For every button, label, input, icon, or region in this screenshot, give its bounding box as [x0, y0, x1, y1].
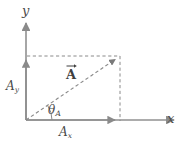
angle-label-subscript: A	[55, 109, 60, 118]
y-component-label-subscript: y	[15, 85, 19, 94]
vector-magnitude-label: A	[66, 63, 76, 81]
x-component-label-base: A	[59, 125, 68, 139]
diagram-canvas	[0, 0, 182, 148]
angle-label: θA	[48, 104, 61, 116]
y-component-label-base: A	[6, 79, 15, 93]
y-component-label: Ay	[6, 80, 19, 92]
x-component-label: Ax	[59, 126, 72, 138]
x-component-label-subscript: x	[68, 131, 72, 140]
vector-label-text: A	[66, 67, 76, 82]
vector-label-wrapper: A	[66, 63, 76, 81]
y-axis-label: y	[22, 4, 29, 17]
x-axis-label: x	[167, 112, 174, 125]
vector-component-diagram: y x Ay Ax θA A	[0, 0, 182, 148]
